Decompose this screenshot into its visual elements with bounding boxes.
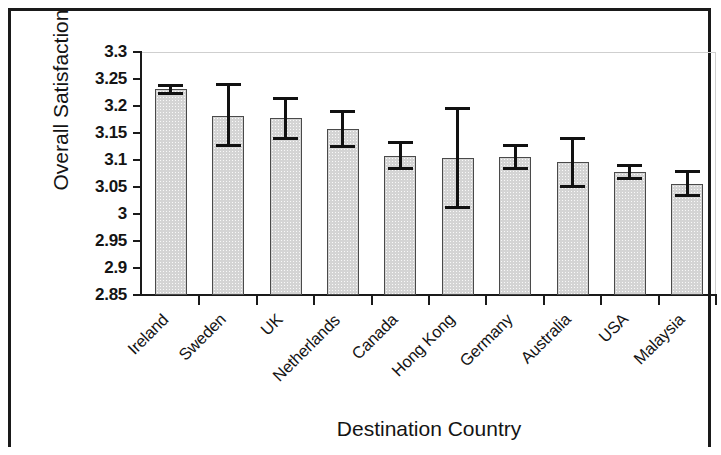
error-bar-cap-upper bbox=[617, 164, 642, 167]
error-bar-cap-upper bbox=[273, 97, 298, 100]
error-bar-cap-lower bbox=[216, 144, 241, 147]
bar bbox=[327, 129, 359, 295]
x-axis-tick bbox=[715, 294, 717, 305]
error-bar-cap-upper bbox=[560, 137, 585, 140]
error-bar-cap-lower bbox=[388, 167, 413, 170]
bar bbox=[384, 156, 416, 295]
x-axis-tick-label: Sweden bbox=[175, 310, 230, 365]
y-axis-tick bbox=[133, 132, 142, 134]
error-bar-stem bbox=[686, 171, 689, 195]
error-bar-cap-lower bbox=[330, 145, 355, 148]
figure-frame: Overall Satisfaction Destination Country… bbox=[8, 8, 711, 448]
y-axis-tick bbox=[133, 51, 142, 53]
x-axis-title: Destination Country bbox=[142, 417, 716, 441]
y-axis-tick-label: 3.1 bbox=[63, 151, 127, 168]
x-axis-tick bbox=[485, 294, 487, 305]
y-axis-tick bbox=[133, 105, 142, 107]
x-axis-tick-label: UK bbox=[257, 310, 286, 339]
y-axis-tick-label: 3.25 bbox=[63, 70, 127, 87]
x-axis-tick-label: Canada bbox=[348, 310, 401, 363]
error-bar-stem bbox=[456, 108, 459, 207]
x-axis-tick-label: Ireland bbox=[124, 310, 172, 358]
x-axis-tick bbox=[600, 294, 602, 305]
error-bar-cap-lower bbox=[560, 185, 585, 188]
error-bar-cap-upper bbox=[388, 141, 413, 144]
bar bbox=[499, 157, 531, 295]
x-axis-tick bbox=[256, 294, 258, 305]
error-bar-cap-lower bbox=[617, 177, 642, 180]
error-bar-cap-upper bbox=[445, 107, 470, 110]
y-axis-tick bbox=[133, 213, 142, 215]
y-axis-tick bbox=[133, 78, 142, 80]
x-axis-tick-label: Malaysia bbox=[630, 310, 688, 368]
bar bbox=[671, 184, 703, 295]
error-bar-cap-upper bbox=[330, 110, 355, 113]
error-bar-cap-upper bbox=[158, 84, 183, 87]
x-axis-tick bbox=[428, 294, 430, 305]
error-bar-stem bbox=[514, 146, 517, 168]
y-axis-tick-label: 2.85 bbox=[63, 286, 127, 303]
y-axis-tick-label: 3.15 bbox=[63, 124, 127, 141]
y-axis-tick bbox=[133, 186, 142, 188]
error-bar-cap-lower bbox=[503, 167, 528, 170]
error-bar-cap-upper bbox=[675, 170, 700, 173]
error-bar-cap-lower bbox=[675, 194, 700, 197]
x-axis-tick-label: Australia bbox=[517, 310, 575, 368]
y-axis-tick bbox=[133, 267, 142, 269]
error-bar-cap-upper bbox=[503, 144, 528, 147]
x-axis-tick bbox=[543, 294, 545, 305]
error-bar-stem bbox=[341, 111, 344, 146]
y-axis-tick-labels: 3.33.253.23.153.13.0532.952.92.85 bbox=[63, 11, 127, 455]
y-axis-tick bbox=[133, 159, 142, 161]
error-bar-stem bbox=[284, 99, 287, 139]
x-axis-tick bbox=[658, 294, 660, 305]
x-axis-tick-label: USA bbox=[595, 310, 632, 347]
error-bar-cap-lower bbox=[158, 92, 183, 95]
x-axis-tick bbox=[198, 294, 200, 305]
y-axis-tick bbox=[133, 240, 142, 242]
y-axis-tick-label: 3.3 bbox=[63, 43, 127, 60]
bar bbox=[155, 89, 187, 295]
x-axis-tick bbox=[371, 294, 373, 305]
error-bar-stem bbox=[571, 138, 574, 186]
y-axis-tick-label: 3 bbox=[63, 205, 127, 222]
error-bar-stem bbox=[399, 143, 402, 168]
error-bar-cap-lower bbox=[273, 137, 298, 140]
error-bar-cap-upper bbox=[216, 83, 241, 86]
error-bar-cap-lower bbox=[445, 206, 470, 209]
y-axis-tick-label: 3.2 bbox=[63, 97, 127, 114]
bar bbox=[270, 118, 302, 295]
bar bbox=[614, 172, 646, 295]
y-axis-tick-label: 2.95 bbox=[63, 232, 127, 249]
y-axis-tick-label: 3.05 bbox=[63, 178, 127, 195]
y-axis-tick-label: 2.9 bbox=[63, 259, 127, 276]
x-axis-tick bbox=[313, 294, 315, 305]
error-bar-stem bbox=[227, 84, 230, 146]
x-axis-tick-label: Germany bbox=[456, 310, 516, 370]
y-axis-tick bbox=[133, 294, 142, 296]
